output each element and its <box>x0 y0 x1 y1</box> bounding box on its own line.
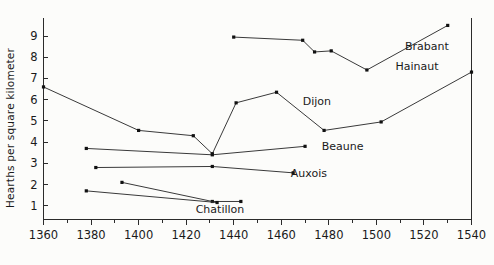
x-tick-label: 1460 <box>267 228 296 242</box>
series-dijon <box>85 145 307 157</box>
data-point <box>365 68 368 71</box>
series-line <box>86 146 305 154</box>
data-point <box>232 35 235 38</box>
y-tick-label: 9 <box>30 29 37 43</box>
series-line <box>122 182 241 201</box>
data-point <box>303 145 306 148</box>
data-point <box>120 181 123 184</box>
x-tick-label: 1400 <box>124 228 153 242</box>
data-point <box>235 101 238 104</box>
y-tick-label: 2 <box>30 178 37 192</box>
x-tick-label: 1380 <box>76 228 105 242</box>
x-tick-label: 1440 <box>219 228 248 242</box>
series-hainaut <box>42 70 473 155</box>
data-point <box>313 50 316 53</box>
data-point <box>85 147 88 150</box>
data-point <box>211 165 214 168</box>
data-point <box>137 129 140 132</box>
y-tick-label: 6 <box>30 93 37 107</box>
data-point <box>42 85 45 88</box>
series-label-chatillon: Chatillon <box>196 203 245 216</box>
series-label-dijon: Dijon <box>303 95 331 108</box>
series-labels: BrabantHainautDijonBeauneAuxoisChatillon <box>196 40 450 216</box>
x-tick-label: 1520 <box>409 228 438 242</box>
chart-figure: Hearths per square kilometer 13601380140… <box>0 0 494 265</box>
data-point <box>380 120 383 123</box>
y-axis-ticks: 123456789 <box>30 29 47 213</box>
x-tick-label: 1360 <box>29 228 58 242</box>
data-point <box>446 24 449 27</box>
data-point <box>192 134 195 137</box>
series-label-auxois: Auxois <box>291 167 327 180</box>
y-axis-title-text: Hearths per square kilometer <box>4 47 16 208</box>
x-axis-ticks: 1360138014001420144014601480150015201540 <box>29 220 486 242</box>
line-chart: Hearths per square kilometer 13601380140… <box>0 0 494 265</box>
x-tick-label: 1500 <box>362 228 391 242</box>
series-label-brabant: Brabant <box>405 40 450 53</box>
y-tick-label: 4 <box>30 135 37 149</box>
y-tick-label: 7 <box>30 71 37 85</box>
series-line <box>44 72 472 154</box>
x-tick-label: 1540 <box>457 228 486 242</box>
series-beaune <box>94 165 295 175</box>
y-axis-title: Hearths per square kilometer <box>4 47 16 208</box>
data-point <box>301 39 304 42</box>
data-point <box>94 166 97 169</box>
y-tick-label: 5 <box>30 114 37 128</box>
data-point <box>470 70 473 73</box>
y-tick-label: 8 <box>30 50 37 64</box>
y-tick-label: 3 <box>30 156 37 170</box>
series-label-beaune: Beaune <box>322 140 364 153</box>
data-point <box>330 49 333 52</box>
data-point <box>275 91 278 94</box>
series-label-hainaut: Hainaut <box>395 60 439 73</box>
series-line <box>86 191 217 203</box>
data-point <box>211 153 214 156</box>
x-tick-label: 1420 <box>172 228 201 242</box>
x-tick-label: 1480 <box>314 228 343 242</box>
data-point <box>85 189 88 192</box>
y-tick-label: 1 <box>30 199 37 213</box>
data-point <box>322 129 325 132</box>
series-line <box>96 166 293 172</box>
